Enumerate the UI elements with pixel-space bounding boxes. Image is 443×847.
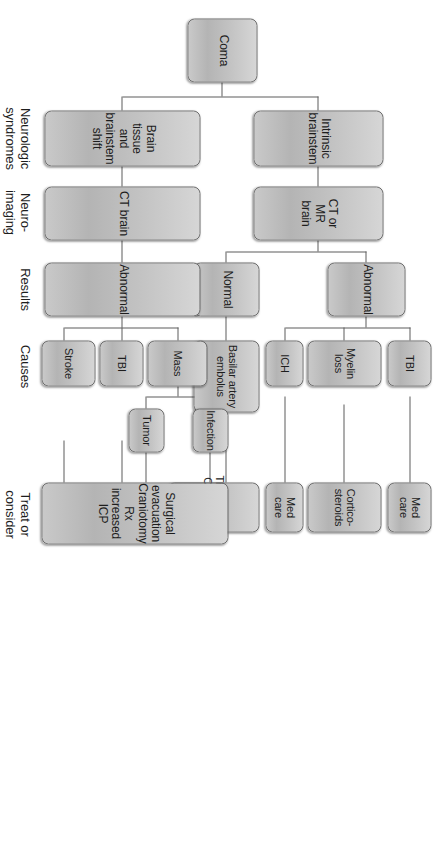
row-label-treat-or-consider: Treat or consider [1,470,31,558]
row-label-neuro-imaging: Neuro- imaging [1,172,31,252]
connector [121,96,122,110]
connector [221,82,222,96]
node-coma[interactable]: Coma [187,18,257,82]
connector [284,327,285,340]
node-ct-or-mr-brain[interactable]: CT or MR brain [253,186,383,240]
connector [365,251,366,262]
connector [121,327,122,340]
connector [63,327,64,340]
node-treatment-med-care-tbi[interactable]: Med care [387,482,431,532]
connector [284,396,285,482]
row-label-results: Results [16,250,31,328]
connector [285,327,410,328]
node-cause-tumor[interactable]: Tumor [128,408,164,452]
node-cause-tbi-right[interactable]: TBI [387,340,431,386]
connector [343,327,344,340]
node-brain-tissue-and-brainstem-shift[interactable]: Brain tissue and brainstem shift [44,110,200,166]
node-cause-myelin-loss[interactable]: Myelin loss [307,340,381,386]
node-cause-stroke[interactable]: Stroke [41,340,95,386]
connector [317,240,318,251]
connector [145,452,146,482]
connector [177,386,178,396]
node-results-abnormal-left[interactable]: Abnormal [44,262,200,316]
connector [317,166,318,186]
node-ct-brain[interactable]: CT brain [44,186,200,240]
node-cause-ich[interactable]: ICH [265,340,303,386]
connector [225,251,226,262]
node-treatment-corticosteroids[interactable]: Cortico- steroids [307,482,381,532]
connector [409,396,410,482]
node-results-normal[interactable]: Normal [193,262,259,316]
connector [122,96,318,97]
row-label-causes: Causes [16,330,31,402]
connector [121,440,122,482]
connector [63,440,64,482]
connector [121,166,122,186]
node-cause-infection[interactable]: Infection [192,408,228,452]
connector [365,316,366,327]
connector [317,96,318,110]
node-cause-tbi-left[interactable]: TBI [99,340,143,386]
connector [226,251,366,252]
connector [225,316,226,340]
node-treatment-surgical[interactable]: Surgical evacuation Craniotomy Rx increa… [41,482,228,544]
connector [177,327,178,340]
connector [121,316,122,327]
figure-stage: Coma Intrinsic brainstem Brain tissue an… [0,0,443,847]
connector [409,327,410,340]
flowchart-canvas: Coma Intrinsic brainstem Brain tissue an… [0,0,443,847]
connector [145,396,146,408]
connector [121,240,122,262]
node-intrinsic-brainstem[interactable]: Intrinsic brainstem [253,110,383,166]
connector [343,404,344,482]
node-cause-mass[interactable]: Mass [147,340,207,386]
node-results-abnormal-right[interactable]: Abnormal [327,262,405,316]
node-treatment-med-care-ich[interactable]: Med care [265,482,303,532]
row-label-neurologic-syndromes: Neurologic syndromes [1,92,31,184]
